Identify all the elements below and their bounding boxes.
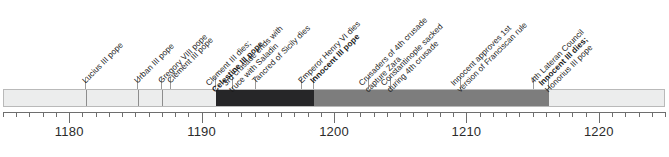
axis-tick-minor [506,112,507,117]
axis-tick-label: 1210 [452,124,482,139]
axis-tick-minor [519,112,520,117]
axis-tick-minor [241,112,242,117]
axis-tick-minor [281,112,282,117]
axis-tick-minor [572,112,573,117]
axis-tick-minor [387,112,388,117]
axis-tick-minor [162,112,163,117]
axis-tick-major [69,112,70,123]
axis-tick-major [334,112,335,123]
axis-tick-minor [109,112,110,117]
axis-tick-minor [175,112,176,117]
timeline-segment [86,90,138,106]
axis-tick-major [599,112,600,123]
axis-tick-minor [255,112,256,117]
axis-tick-major [202,112,203,123]
axis-tick-minor [294,112,295,117]
axis-tick-minor [586,112,587,117]
axis-tick-minor [347,112,348,117]
axis-tick-minor [665,112,666,117]
axis-tick-label: 1180 [55,124,84,139]
event-label: Innocent approves 1stversion of Francisc… [449,14,529,94]
axis-tick-minor [625,112,626,117]
timeline-segment [138,90,162,106]
axis-tick-label: 1200 [319,124,349,139]
axis-tick-minor [215,112,216,117]
axis-tick-minor [533,112,534,117]
axis-tick-label: 1220 [584,124,614,139]
axis-tick-minor [360,112,361,117]
timeline-chart: 11801190120012101220 Lucius III popeUrba… [0,0,669,157]
timeline-segment [314,90,550,106]
timeline-segment [216,90,314,106]
axis-tick-minor [29,112,30,117]
axis-tick-minor [639,112,640,117]
event-label-line2: version of Franciscan rule [455,21,529,95]
timeline-bar [3,89,665,107]
axis-tick-minor [400,112,401,117]
axis-tick-minor [82,112,83,117]
axis-tick-minor [228,112,229,117]
axis-tick-minor [427,112,428,117]
segment-divider [86,90,87,106]
timeline-segment [4,90,86,106]
axis-tick-minor [122,112,123,117]
segment-divider [138,90,139,106]
event-label-line1: Innocent approves 1st [449,24,513,88]
axis-tick-minor [56,112,57,117]
axis-tick-minor [413,112,414,117]
axis-tick-minor [652,112,653,117]
axis-tick-minor [149,112,150,117]
axis-tick-minor [16,112,17,117]
axis-tick-minor [480,112,481,117]
axis-tick-minor [453,112,454,117]
axis-tick-minor [374,112,375,117]
event-label: Lucius III pope [81,41,126,86]
axis-tick-minor [440,112,441,117]
axis-tick-minor [321,112,322,117]
timeline-segment [549,90,665,106]
axis-tick-label: 1190 [187,124,216,139]
axis-tick-minor [43,112,44,117]
axis-tick-minor [546,112,547,117]
event-label-line1: Lucius III pope [81,41,126,86]
axis-tick-minor [612,112,613,117]
timeline-segment [162,90,216,106]
axis-tick-minor [96,112,97,117]
axis-tick-minor [308,112,309,117]
axis-tick-major [466,112,467,123]
axis-tick-minor [135,112,136,117]
axis-tick-minor [493,112,494,117]
segment-divider [162,90,163,106]
axis-tick-minor [188,112,189,117]
axis-tick-minor [3,112,4,117]
axis-tick-minor [268,112,269,117]
axis-tick-minor [559,112,560,117]
